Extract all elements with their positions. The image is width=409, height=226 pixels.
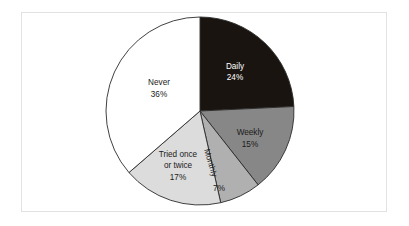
pie-slice-label: Daily <box>226 62 245 71</box>
pie-slice-value: 36% <box>151 90 167 99</box>
pie-chart-svg: Daily24%Weekly15%Monthly7%Tried onceor t… <box>0 0 409 226</box>
pie-slice-label: Weekly <box>237 128 265 137</box>
pie-chart-figure: Daily24%Weekly15%Monthly7%Tried onceor t… <box>0 0 409 226</box>
pie-slice-value: 7% <box>213 184 225 193</box>
pie-chart-canvas: Daily24%Weekly15%Monthly7%Tried onceor t… <box>0 0 409 226</box>
pie-slice-value: 17% <box>170 173 186 182</box>
pie-slice-value: 24% <box>227 73 243 82</box>
pie-slice-label: Never <box>148 78 170 87</box>
pie-slice-value: 15% <box>242 140 258 149</box>
pie-slices-group <box>106 17 294 205</box>
pie-slice-daily[interactable] <box>200 17 294 111</box>
